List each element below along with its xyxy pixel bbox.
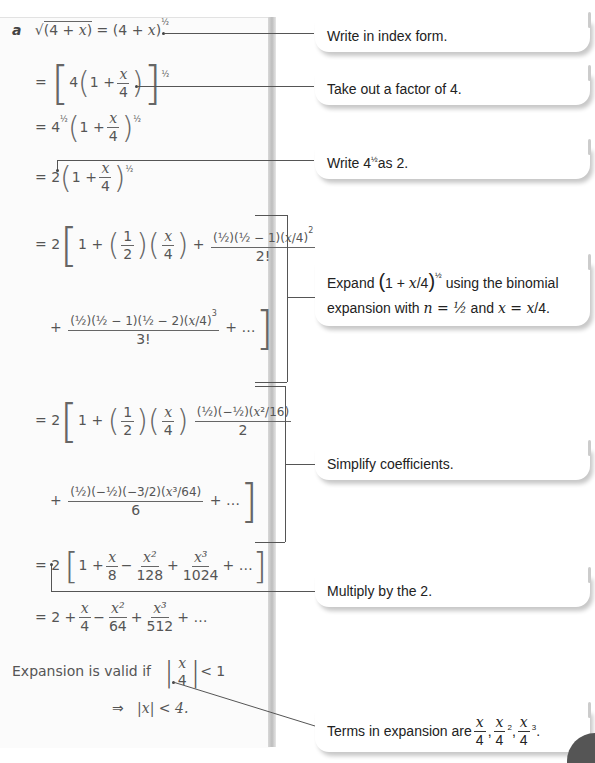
op: + bbox=[222, 557, 234, 573]
note-text: Write 4 bbox=[327, 155, 371, 171]
op: + bbox=[225, 319, 237, 335]
op: + bbox=[177, 609, 189, 625]
exponent: ½ bbox=[60, 115, 68, 124]
denominator: 2 bbox=[121, 246, 134, 263]
digit: 1 bbox=[90, 74, 99, 90]
fraction: x²64 bbox=[107, 600, 129, 635]
numerator: x bbox=[176, 655, 188, 672]
paren: ( bbox=[108, 403, 120, 438]
part-label: a bbox=[12, 22, 21, 38]
denominator: 4 bbox=[78, 618, 91, 635]
x-value: x = bbox=[498, 300, 527, 316]
op: + bbox=[50, 492, 62, 508]
op: = bbox=[35, 119, 47, 135]
bracket: ] bbox=[144, 56, 162, 110]
connector-line bbox=[285, 464, 315, 465]
bracket-line bbox=[255, 386, 285, 387]
op: − bbox=[121, 557, 133, 573]
note-edge bbox=[588, 12, 591, 28]
paren: ( bbox=[78, 65, 90, 100]
numerator: x bbox=[474, 714, 486, 732]
var-x: x bbox=[79, 22, 87, 38]
op: = bbox=[97, 22, 109, 38]
note-text: using the binomial bbox=[442, 274, 559, 290]
step-6-line-1: = 2[1 + (12)(x4) (½)(−½)(x²/16)2 bbox=[35, 398, 293, 444]
n-value: n = ½ bbox=[424, 300, 467, 316]
op: + bbox=[93, 119, 105, 135]
denominator: 3! bbox=[134, 331, 153, 348]
op: = bbox=[35, 169, 47, 185]
bracket: [ bbox=[60, 394, 78, 448]
ellipsis: … bbox=[239, 557, 253, 573]
digit: 4 bbox=[69, 74, 78, 90]
digit: 1 bbox=[78, 412, 87, 428]
note-text: and bbox=[467, 300, 498, 316]
connector-line bbox=[51, 591, 315, 592]
note-edge bbox=[588, 254, 591, 270]
fraction: x4 bbox=[474, 714, 486, 749]
note-expand-line-1: Expand (1 + x/4)½ using the binomial bbox=[327, 267, 559, 296]
var-x: x bbox=[526, 300, 534, 316]
exponent: 3 bbox=[212, 309, 217, 318]
denominator: 2 bbox=[237, 422, 250, 439]
numerator: x³ bbox=[192, 549, 210, 567]
denominator: 4 bbox=[117, 84, 130, 101]
exponent: ½ bbox=[161, 18, 169, 27]
op: + bbox=[167, 557, 179, 573]
numerator: x³ bbox=[151, 600, 169, 618]
paren: ) bbox=[132, 65, 144, 100]
bracket: [ bbox=[60, 218, 78, 272]
fraction: x4 bbox=[117, 66, 130, 101]
connector-line bbox=[287, 297, 315, 298]
op: + bbox=[210, 492, 222, 508]
fraction: x4 bbox=[162, 228, 175, 263]
step-6-line-2: + (½)(−½)(−3/2)(x³/64)6 + …] bbox=[50, 478, 258, 524]
digit: 2 bbox=[51, 412, 60, 428]
bracket: ] bbox=[255, 301, 273, 355]
note-text: Take out a factor of 4. bbox=[327, 81, 462, 97]
note-index-form: Write in index form. bbox=[315, 20, 590, 52]
paren: ) bbox=[87, 22, 92, 38]
ellipsis: … bbox=[193, 609, 207, 625]
exponent: ½ bbox=[161, 70, 169, 79]
var-x: x bbox=[148, 22, 156, 38]
fraction-term-3: (½)(½ − 1)(½ − 2)(x/4)33! bbox=[68, 309, 219, 348]
step-7: = 2 [1 +x8−x²128+x³1024+ …] bbox=[35, 548, 267, 584]
fraction: x³1024 bbox=[181, 549, 221, 584]
note-terms: Terms in expansion are x4, x42, x43. bbox=[315, 710, 590, 752]
note-edge bbox=[588, 702, 591, 718]
op: + bbox=[65, 609, 77, 625]
paren: ( bbox=[60, 160, 72, 195]
denominator: 4 bbox=[99, 178, 112, 195]
op: + bbox=[132, 22, 144, 38]
numerator: x bbox=[117, 66, 129, 84]
paren: ) bbox=[114, 160, 126, 195]
op: = bbox=[35, 74, 47, 90]
paren: ) bbox=[177, 227, 189, 262]
note-expand-line-2: expansion with n = ½ and x = x/4. bbox=[327, 295, 550, 321]
paren: ( bbox=[108, 227, 120, 262]
fraction: x4 bbox=[494, 714, 506, 749]
paren: ( bbox=[148, 403, 160, 438]
exponent: ½ bbox=[371, 155, 378, 164]
ellipsis: … bbox=[226, 492, 240, 508]
connector-diagonal bbox=[173, 682, 323, 732]
digit: 1 bbox=[72, 169, 81, 185]
bracket-line bbox=[255, 542, 285, 543]
fraction-term-3: (½)(−½)(−3/2)(x³/64)6 bbox=[68, 484, 203, 519]
step-5-line-1: = 2[1 + (12)(x4) + (½)(½ − 1)(x/4)22! bbox=[35, 222, 317, 268]
numerator: 1 bbox=[121, 228, 134, 246]
digit: 2 bbox=[51, 609, 60, 625]
connector-dot bbox=[50, 563, 53, 566]
exponent: 2 bbox=[507, 723, 511, 732]
exponent: 2 bbox=[308, 226, 313, 235]
fraction-term-2: (½)(½ − 1)(x/4)22! bbox=[211, 226, 315, 265]
step-8: = 2 +x4−x²64+x³512+ … bbox=[35, 600, 207, 635]
note-text: as 2. bbox=[378, 155, 408, 171]
exponent: ½ bbox=[435, 271, 442, 280]
paren: ) bbox=[177, 403, 189, 438]
op: + bbox=[91, 236, 103, 252]
digit: 4 bbox=[118, 22, 127, 38]
sqrt-symbol: √ bbox=[35, 22, 44, 38]
fraction-term-2: (½)(−½)(x²/16)2 bbox=[195, 404, 291, 439]
